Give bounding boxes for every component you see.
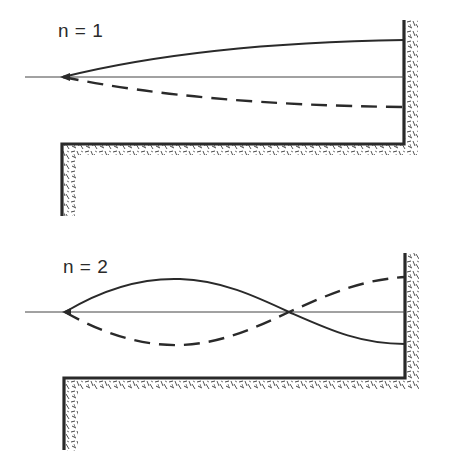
mode-2-label: n = 2 [63, 256, 108, 278]
mode-1-label: n = 1 [58, 20, 103, 42]
figure-mode-1 [25, 20, 418, 216]
floor-hatch [62, 144, 418, 155]
apex-marker [62, 308, 71, 316]
standing-wave-diagram [0, 0, 451, 469]
floor-hatch [64, 379, 419, 390]
post-hatch [64, 144, 76, 216]
boundary-outline [64, 253, 405, 450]
apex-marker [60, 73, 70, 81]
dashed-mode-curve [63, 77, 404, 107]
wall-hatch [406, 253, 419, 389]
figure-mode-2 [25, 253, 419, 451]
wall-hatch [405, 20, 418, 155]
solid-mode-curve [63, 40, 404, 77]
dashed-mode-curve [65, 277, 405, 345]
post-hatch [66, 379, 78, 451]
